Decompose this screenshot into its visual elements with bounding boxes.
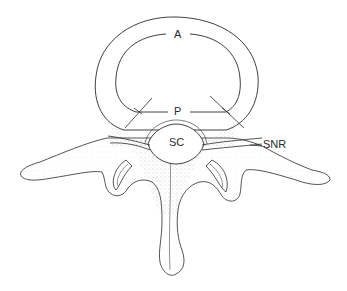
label-spinal-canal: SC [168, 137, 185, 148]
label-spinal-nerve-root: SNR [262, 139, 287, 150]
label-posterior: P [173, 106, 182, 117]
label-anterior: A [173, 29, 182, 40]
